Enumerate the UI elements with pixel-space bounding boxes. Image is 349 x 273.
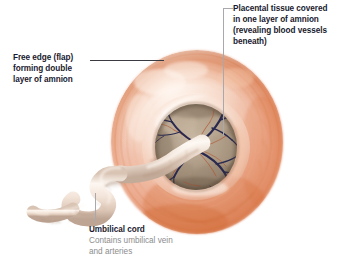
label-umbilical-cord-subtitle-line-2: and arteries	[89, 246, 173, 257]
leader-line-placental-horizontal	[223, 8, 233, 9]
leader-line-placental-vertical	[223, 8, 224, 136]
leader-line-umbilical-cord	[95, 193, 96, 222]
label-free-edge-line-3: layer of amnion	[13, 74, 73, 85]
label-placental-tissue-line-2: in one layer of amnion	[233, 14, 327, 25]
label-umbilical-cord-title: Umbilical cord	[89, 224, 145, 235]
label-placental-tissue: Placental tissue covered in one layer of…	[233, 3, 327, 47]
label-placental-tissue-line-3: (revealing blood vessels	[233, 25, 327, 36]
label-free-edge: Free edge (flap) forming double layer of…	[13, 52, 73, 85]
medical-illustration-figure: Placental tissue covered in one layer of…	[0, 0, 349, 273]
leader-line-free-edge	[90, 60, 164, 61]
label-umbilical-cord-subtitle-line-1: Contains umbilical vein	[89, 235, 173, 246]
label-placental-tissue-line-4: beneath)	[233, 36, 327, 47]
label-umbilical-cord-subtitle: Contains umbilical vein and arteries	[89, 235, 173, 257]
label-free-edge-line-1: Free edge (flap)	[13, 52, 73, 63]
label-free-edge-line-2: forming double	[13, 63, 73, 74]
label-placental-tissue-line-1: Placental tissue covered	[233, 3, 327, 14]
